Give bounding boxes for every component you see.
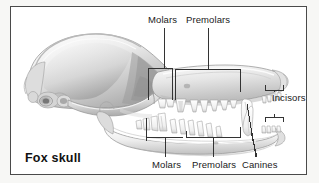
- label-premolars-upper: Premolars: [186, 15, 230, 25]
- label-premolars-lower: Premolars: [192, 160, 236, 170]
- figure-caption: Fox skull: [25, 151, 81, 165]
- label-canines: Canines: [242, 160, 278, 170]
- label-molars-upper: Molars: [148, 15, 177, 25]
- label-incisors: Incisors: [272, 93, 306, 103]
- bracket-incisors-lower: [265, 117, 283, 122]
- label-molars-lower: Molars: [152, 160, 181, 170]
- fox-skull-figure: Molars Premolars Incisors Molars Premola…: [0, 0, 319, 183]
